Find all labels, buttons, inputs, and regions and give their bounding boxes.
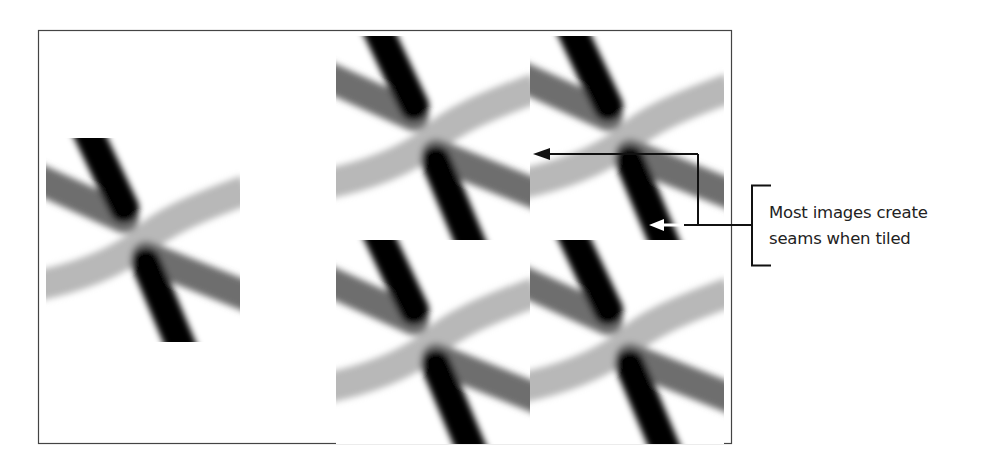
callout-line-1: Most images create bbox=[769, 200, 928, 226]
tile-r1-c2 bbox=[520, 26, 735, 251]
tile-r2-c1 bbox=[326, 230, 541, 455]
callout-line-2: seams when tiled bbox=[769, 226, 928, 252]
tiled-grid bbox=[326, 26, 735, 455]
tile-r1-c1 bbox=[326, 26, 541, 251]
tile-r2-c2 bbox=[520, 230, 735, 455]
callout-label: Most images create seams when tiled bbox=[769, 200, 928, 252]
single-tile-image bbox=[36, 128, 251, 353]
